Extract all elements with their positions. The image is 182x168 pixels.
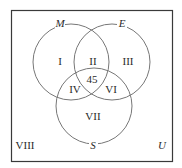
universe-label: U	[158, 139, 167, 151]
region-center: 45	[87, 73, 99, 85]
region-ii: II	[89, 55, 97, 67]
region-viii: VIII	[16, 139, 35, 151]
set-label-m: M	[54, 17, 65, 29]
region-vi: VI	[105, 83, 117, 95]
region-iv: IV	[69, 83, 81, 95]
set-label-e: E	[118, 17, 126, 29]
region-i: I	[58, 55, 62, 67]
region-iii: III	[123, 55, 134, 67]
venn-diagram: M E S U I II III IV 45 VI VII VIII	[0, 0, 182, 168]
region-vii: VII	[85, 110, 101, 122]
set-label-s: S	[90, 139, 96, 151]
